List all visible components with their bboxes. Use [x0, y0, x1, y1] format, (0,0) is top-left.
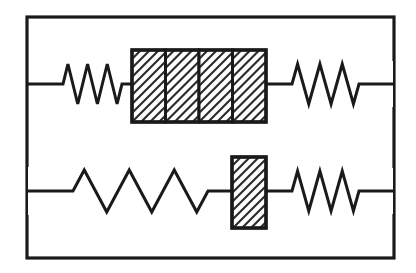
figure-background [0, 0, 416, 273]
schematic-figure: Mechanical network schematic: two parall… [0, 0, 416, 273]
schematic-canvas [0, 0, 416, 273]
